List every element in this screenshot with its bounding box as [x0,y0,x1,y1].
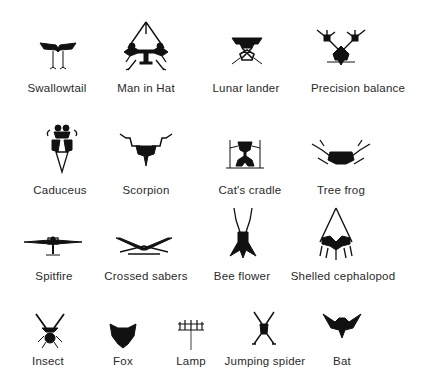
label-crossed-sabers: Crossed sabers [104,270,187,282]
fox-biomorph-icon [108,322,138,350]
label-precision-balance: Precision balance [311,82,405,94]
label-man-in-hat: Man in Hat [117,82,175,94]
bee-flower-biomorph-icon [228,206,258,262]
label-tree-frog: Tree frog [317,184,365,196]
swallowtail-biomorph-icon [38,40,78,72]
man-in-hat-biomorph-icon [118,20,174,76]
spitfire-biomorph-icon [22,234,84,258]
label-caduceus: Caduceus [33,184,86,196]
tree-frog-biomorph-icon [310,138,372,168]
label-shelled-cephalopod: Shelled cephalopod [291,270,396,282]
label-bee-flower: Bee flower [214,270,270,282]
label-lunar-lander: Lunar lander [213,82,280,94]
precision-balance-biomorph-icon [313,26,369,66]
label-swallowtail: Swallowtail [27,82,86,94]
cats-cradle-biomorph-icon [224,138,266,172]
label-insect: Insect [32,355,64,367]
lunar-lander-biomorph-icon [230,36,264,66]
bat-biomorph-icon [321,312,363,340]
label-cats-cradle: Cat's cradle [219,184,282,196]
label-scorpion: Scorpion [123,184,170,196]
caduceus-biomorph-icon [44,122,80,174]
crossed-sabers-biomorph-icon [114,236,174,256]
lamp-biomorph-icon [176,318,206,352]
shelled-cephalopod-biomorph-icon [316,206,356,262]
label-lamp: Lamp [176,355,206,367]
jumping-spider-biomorph-icon [250,310,278,348]
label-bat: Bat [333,355,351,367]
label-fox: Fox [113,355,133,367]
label-jumping-spider: Jumping spider [225,355,306,367]
insect-biomorph-icon [34,312,66,348]
label-spitfire: Spitfire [35,270,72,282]
scorpion-biomorph-icon [118,130,174,170]
